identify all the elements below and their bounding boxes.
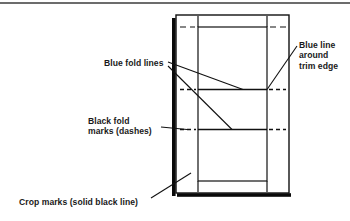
label-blue-trim-edge-line-2: around: [299, 50, 328, 60]
label-black-fold-marks-line-2: marks (dashes): [88, 126, 152, 136]
label-blue-line-around-trim-edge: Blue linearoundtrim edge: [299, 40, 338, 71]
trim-rectangle: [198, 27, 267, 181]
black-fold-marks-group: [180, 90, 286, 130]
shadow-bar-bottom: [177, 193, 291, 197]
label-blue-trim-edge-line-1: Blue line: [299, 40, 335, 50]
diagram-canvas: [0, 0, 350, 221]
crop-rectangle: [176, 15, 289, 193]
label-blue-fold-lines: Blue fold lines: [104, 58, 163, 68]
label-blue-trim-edge-line-3: trim edge: [299, 61, 338, 71]
label-black-fold-marks-line-1: Black fold: [88, 116, 130, 126]
label-crop-marks: Crop marks (solid black line): [19, 197, 138, 207]
leader-blue-fold-lines-upper: [168, 62, 243, 90]
corner-crop-marks-group: [198, 16, 267, 192]
leader-blue-trim-edge: [267, 46, 297, 90]
shadow-bar-left: [172, 18, 176, 196]
label-black-fold-marks: Black foldmarks (dashes): [88, 116, 152, 137]
leader-blue-fold-lines-lower: [168, 66, 232, 130]
blue-fold-lines-group: [198, 90, 267, 130]
prepress-marks-figure: Blue fold lines Blue linearoundtrim edge…: [0, 0, 350, 221]
